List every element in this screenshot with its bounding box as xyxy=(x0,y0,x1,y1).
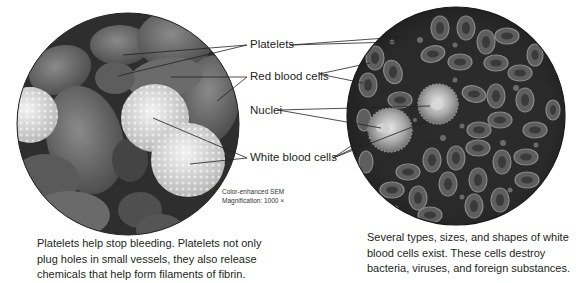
sem-micrograph xyxy=(2,10,250,246)
blood-cells-figure: Platelets Red blood cells Nuclei White b… xyxy=(0,0,588,283)
label-white-blood-cells: White blood cells xyxy=(250,151,337,164)
right-caption: Several types, sizes, and shapes of whit… xyxy=(367,230,570,277)
left-caption-line3: chemicals that help form filaments of fi… xyxy=(37,267,261,283)
label-nuclei: Nuclei xyxy=(250,104,282,117)
right-caption-line3: bacteria, viruses, and foreign substance… xyxy=(367,261,570,277)
right-caption-line1: Several types, sizes, and shapes of whit… xyxy=(367,230,570,246)
label-platelets: Platelets xyxy=(250,38,294,51)
sem-caption: Color-enhanced SEM Magnification: 1000 × xyxy=(222,187,284,205)
left-caption: Platelets help stop bleeding. Platelets … xyxy=(37,236,261,283)
blood-illustration xyxy=(340,0,580,240)
sem-caption-line1: Color-enhanced SEM xyxy=(222,187,284,196)
sem-caption-line2: Magnification: 1000 × xyxy=(222,196,284,205)
right-caption-line2: blood cells exist. These cells destroy xyxy=(367,246,570,262)
label-red-blood-cells: Red blood cells xyxy=(250,70,329,83)
left-caption-line2: plug holes in small vessels, they also r… xyxy=(37,252,261,268)
left-caption-line1: Platelets help stop bleeding. Platelets … xyxy=(37,236,261,252)
